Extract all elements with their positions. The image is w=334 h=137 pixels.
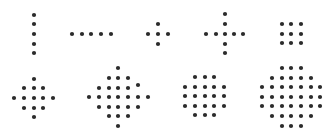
dot bbox=[299, 76, 303, 80]
dot bbox=[193, 104, 197, 108]
dot bbox=[126, 95, 130, 99]
dot bbox=[214, 32, 218, 36]
dot bbox=[280, 32, 284, 36]
dot bbox=[32, 42, 36, 46]
pattern-large-diamond bbox=[87, 66, 150, 128]
pattern-vertical-line bbox=[32, 13, 36, 55]
dot bbox=[223, 22, 227, 26]
dot bbox=[280, 22, 284, 26]
dot bbox=[116, 124, 120, 128]
dot bbox=[183, 104, 187, 108]
dot bbox=[318, 85, 322, 89]
dot bbox=[299, 41, 303, 45]
dot bbox=[299, 124, 303, 128]
dot bbox=[166, 32, 170, 36]
dot bbox=[280, 95, 284, 99]
dot bbox=[212, 85, 216, 89]
dot bbox=[270, 95, 274, 99]
dot bbox=[32, 13, 36, 17]
dot bbox=[51, 96, 55, 100]
dot bbox=[193, 94, 197, 98]
dot bbox=[116, 76, 120, 80]
dot bbox=[116, 66, 120, 70]
dot bbox=[22, 86, 26, 90]
dot bbox=[136, 83, 140, 87]
dot bbox=[156, 22, 160, 26]
dot bbox=[22, 96, 26, 100]
dot bbox=[309, 114, 313, 118]
dot bbox=[99, 32, 103, 36]
dot bbox=[260, 95, 264, 99]
dot bbox=[223, 42, 227, 46]
dot bbox=[126, 114, 130, 118]
dot bbox=[32, 106, 36, 110]
dot bbox=[136, 95, 140, 99]
dot bbox=[97, 86, 101, 90]
dot bbox=[289, 124, 293, 128]
dot bbox=[299, 32, 303, 36]
dot bbox=[109, 32, 113, 36]
dot bbox=[289, 95, 293, 99]
dot bbox=[270, 104, 274, 108]
dot bbox=[299, 66, 303, 70]
dot bbox=[193, 113, 197, 117]
dot bbox=[32, 77, 36, 81]
dot bbox=[193, 75, 197, 79]
dot bbox=[299, 85, 303, 89]
dot bbox=[289, 66, 293, 70]
dot bbox=[222, 104, 226, 108]
dot bbox=[289, 32, 293, 36]
dot bbox=[32, 86, 36, 90]
dot bbox=[260, 85, 264, 89]
dot bbox=[309, 95, 313, 99]
dot bbox=[212, 113, 216, 117]
dot bbox=[203, 113, 207, 117]
dot bbox=[212, 75, 216, 79]
dot bbox=[87, 95, 91, 99]
dot bbox=[193, 85, 197, 89]
dot bbox=[12, 96, 16, 100]
dot bbox=[126, 86, 130, 90]
dot bbox=[280, 104, 284, 108]
dot bbox=[203, 85, 207, 89]
dot bbox=[116, 105, 120, 109]
dot bbox=[289, 76, 293, 80]
dot bbox=[212, 104, 216, 108]
dot bbox=[32, 51, 36, 55]
dot bbox=[89, 32, 93, 36]
pattern-horizontal-line bbox=[70, 32, 113, 36]
dot bbox=[223, 32, 227, 36]
dot bbox=[22, 106, 26, 110]
dot bbox=[280, 66, 284, 70]
dot bbox=[126, 76, 130, 80]
dot bbox=[232, 32, 236, 36]
pattern-small-plus bbox=[146, 22, 170, 46]
dot bbox=[116, 95, 120, 99]
dot bbox=[223, 51, 227, 55]
dot bbox=[280, 41, 284, 45]
dot bbox=[183, 94, 187, 98]
dot bbox=[32, 32, 36, 36]
pattern-square-3x3 bbox=[280, 22, 303, 45]
dot bbox=[146, 32, 150, 36]
dot bbox=[32, 22, 36, 26]
dot bbox=[203, 104, 207, 108]
dot bbox=[280, 85, 284, 89]
dot bbox=[41, 86, 45, 90]
dot bbox=[107, 114, 111, 118]
dot bbox=[299, 114, 303, 118]
dot bbox=[318, 95, 322, 99]
dot bbox=[107, 105, 111, 109]
dot bbox=[41, 96, 45, 100]
dot bbox=[299, 95, 303, 99]
dot bbox=[289, 22, 293, 26]
dot bbox=[289, 85, 293, 89]
dot bbox=[309, 76, 313, 80]
dot bbox=[204, 32, 208, 36]
dot bbox=[260, 104, 264, 108]
dot bbox=[183, 85, 187, 89]
dot bbox=[97, 95, 101, 99]
dot bbox=[156, 42, 160, 46]
dot bbox=[241, 32, 245, 36]
dot bbox=[116, 86, 120, 90]
